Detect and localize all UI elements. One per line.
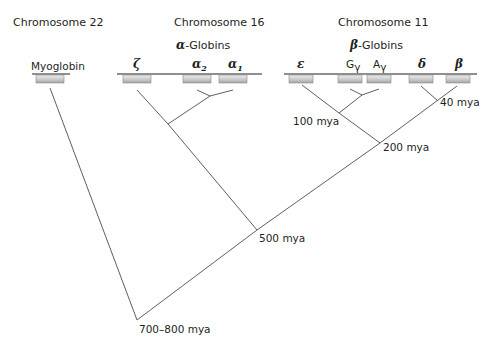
branch-alpha-cluster (168, 124, 257, 230)
alpha-symbol: α (176, 38, 185, 52)
branch-beta (380, 86, 457, 143)
chromosome-11-label: Chromosome 11 (338, 16, 429, 29)
branch-hemoglobin (137, 230, 257, 320)
divergence-label-100-mya: 100 mya (293, 115, 339, 127)
gene-label-delta: δ (417, 57, 426, 71)
beta-symbol: β (349, 38, 358, 52)
alpha-globins-label: α-Globins (176, 38, 231, 52)
gene-label-alpha2: α2 (192, 57, 207, 73)
branch-gamma-stem (339, 95, 362, 113)
gene-box-g-gamma (338, 75, 362, 83)
globin-evolution-diagram: Chromosome 22 Chromosome 16 Chromosome 1… (0, 0, 485, 345)
gene-box-delta (409, 75, 433, 83)
gene-box-alpha1 (219, 75, 247, 83)
branch-epsilon-gamma (339, 113, 380, 143)
chromosome-22-label: Chromosome 22 (13, 16, 104, 29)
beta-globins-label: β-Globins (349, 38, 403, 52)
gene-label-myoglobin: Myoglobin (31, 60, 85, 72)
gene-label-epsilon: ε (297, 57, 305, 71)
divergence-label-500-mya: 500 mya (259, 232, 305, 244)
divergence-label-200-mya: 200 mya (383, 141, 429, 153)
chromosome-16-label: Chromosome 16 (174, 16, 265, 29)
branch-epsilon (302, 85, 339, 113)
branch-myoglobin (50, 88, 137, 320)
gene-label-zeta: ζ (133, 57, 141, 71)
gene-label-alpha1: α1 (228, 57, 243, 73)
gene-label-beta: β (454, 57, 463, 71)
branch-alpha-dup-stem (168, 96, 210, 124)
gene-box-a-gamma (367, 75, 391, 83)
divergence-label-700-800-mya: 700–800 mya (139, 323, 211, 335)
branch-alpha2-alpha1 (197, 90, 233, 96)
gene-box-zeta (123, 75, 151, 83)
gene-box-alpha2 (183, 75, 211, 83)
alpha-suffix: -Globins (185, 39, 230, 52)
gene-box-epsilon (289, 75, 313, 83)
beta-suffix: -Globins (358, 39, 403, 52)
gene-label-a-gamma: Aγ (373, 58, 386, 73)
branch-g-gamma-a-gamma (350, 89, 379, 95)
gene-label-g-gamma: Gγ (346, 58, 360, 73)
divergence-label-40-mya: 40 mya (440, 96, 480, 108)
branch-delta (421, 86, 438, 101)
branch-zeta (137, 90, 168, 124)
gene-box-beta (446, 75, 470, 83)
gene-box-myoglobin (36, 75, 64, 83)
branch-beta-cluster (257, 143, 380, 230)
